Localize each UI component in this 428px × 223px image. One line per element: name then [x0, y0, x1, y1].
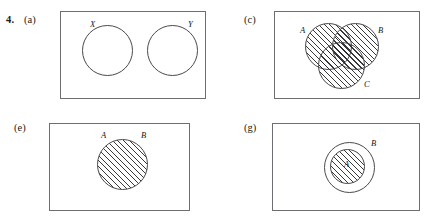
panel-g-tag: (g) [244, 122, 256, 133]
panel-e-tag: (e) [14, 122, 26, 133]
panel-c-tag: (c) [244, 14, 256, 25]
panel-e-circle-ab [97, 139, 148, 190]
panel-g-label-b: B [371, 139, 376, 148]
panel-a-circle-y [147, 25, 198, 76]
panel-a-label-x: X [90, 20, 95, 29]
panel-g-label-a: A [344, 160, 349, 169]
panel-c-label-c: C [364, 80, 370, 89]
panel-c-label-a: A [300, 26, 305, 35]
panel-a-circle-x [82, 25, 133, 76]
panel-c-circle-c [318, 42, 365, 89]
panel-c-label-b: B [378, 26, 383, 35]
panel-a-label-y: Y [188, 20, 193, 29]
panel-e-label-b: B [141, 131, 146, 140]
panel-e-label-a: A [101, 131, 106, 140]
panel-a-tag: (a) [24, 14, 36, 25]
figure-number: 4. [6, 14, 14, 25]
figure-page: 4. (a) X Y (c) A B C (e) A B (g) A B [0, 0, 428, 223]
